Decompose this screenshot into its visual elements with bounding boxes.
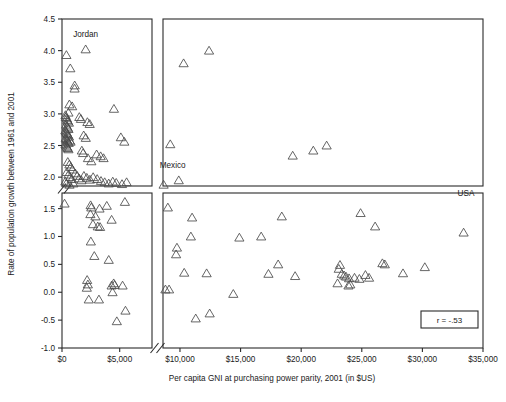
x-tick-label: $25,000 <box>347 355 377 364</box>
annotation-usa: USA <box>458 189 475 198</box>
y-tick-label: 4.5 <box>44 15 56 24</box>
y-tick-label: 3.0 <box>44 110 56 119</box>
x-tick-label: $10,000 <box>165 355 195 364</box>
scatter-plot-figure: -1.0-0.50.00.51.01.52.02.53.03.54.04.5$0… <box>0 0 506 402</box>
figure-background <box>0 0 506 402</box>
y-tick-label: -1.0 <box>41 344 56 353</box>
y-tick-label: 2.0 <box>44 173 56 182</box>
annotation-mexico: Mexico <box>160 161 186 170</box>
stat-box-label: r = -.53 <box>437 316 463 325</box>
y-tick-label: 1.0 <box>44 232 56 241</box>
y-tick-label: 0.5 <box>44 260 56 269</box>
y-tick-label: 2.5 <box>44 142 56 151</box>
correlation-stat-box: r = -.53 <box>421 311 478 328</box>
x-tick-label: $30,000 <box>408 355 438 364</box>
y-tick-label: 0.0 <box>44 288 56 297</box>
chart-canvas: -1.0-0.50.00.51.01.52.02.53.03.54.04.5$0… <box>0 0 506 402</box>
x-tick-label: $35,000 <box>468 355 498 364</box>
y-tick-label: 1.5 <box>44 205 56 214</box>
y-tick-label: -0.5 <box>41 316 56 325</box>
x-tick-label: $5,000 <box>107 355 132 364</box>
x-axis-title: Per capita GNI at purchasing power parit… <box>169 374 376 383</box>
y-tick-label: 3.5 <box>44 78 56 87</box>
annotation-jordan: Jordan <box>73 30 98 39</box>
y-axis-title: Rate of population growth between 1961 a… <box>7 92 16 276</box>
x-tick-label: $15,000 <box>226 355 256 364</box>
x-tick-label: $0 <box>57 355 67 364</box>
x-tick-label: $20,000 <box>286 355 316 364</box>
y-tick-label: 4.0 <box>44 47 56 56</box>
